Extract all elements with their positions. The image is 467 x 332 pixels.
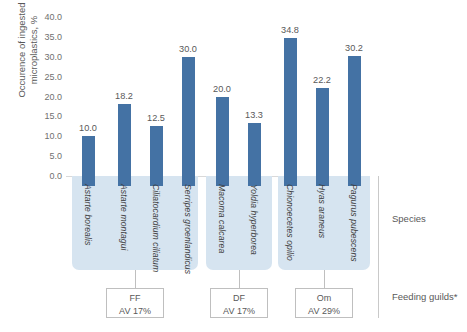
guild-code: DF — [211, 292, 267, 305]
species-name-label: Pagurus pubescens — [349, 184, 359, 262]
bar-value-label: 13.3 — [234, 110, 274, 120]
bar — [248, 123, 261, 176]
species-axis-label: Species — [392, 213, 426, 224]
bar-value-label: 22.2 — [302, 75, 342, 85]
y-axis-tick: 15.0 — [28, 111, 62, 121]
bar-value-label: 30.2 — [334, 43, 374, 53]
bar-value-label: 30.0 — [168, 44, 208, 54]
guild-connector — [239, 270, 240, 288]
guild-connector — [324, 270, 325, 288]
bar — [118, 104, 131, 176]
species-name-label: Hyas araneus — [317, 184, 327, 238]
species-group-panel: Chionoecetes opilioHyas araneusPagurus p… — [278, 176, 370, 270]
bar-value-label: 18.2 — [104, 91, 144, 101]
species-name-label: Serripes groenlandicus — [183, 184, 193, 274]
feeding-guild-box: FFAV 17% — [106, 288, 164, 318]
bar-value-label: 34.8 — [270, 25, 310, 35]
bar — [316, 88, 329, 176]
chart-container: Occurence of ingested microplastics, % 4… — [0, 0, 467, 332]
guild-code: Om — [296, 292, 352, 305]
species-group-panel: Macoma calcareaYoldia hyperborea — [206, 176, 272, 270]
feeding-guild-box: OmAV 29% — [295, 288, 353, 318]
bar — [82, 136, 95, 176]
guild-average: AV 17% — [211, 305, 267, 318]
y-axis-tick: 10.0 — [28, 131, 62, 141]
species-name-label: Macoma calcarea — [217, 184, 227, 253]
bar-value-label: 10.0 — [68, 123, 108, 133]
bar-value-label: 12.5 — [136, 113, 176, 123]
guild-average: AV 17% — [107, 305, 163, 318]
y-axis-tick: 40.0 — [28, 12, 62, 22]
y-axis-tick-labels: 40.035.030.025.020.015.010.05.00.0 — [12, 0, 62, 332]
bar — [182, 57, 195, 176]
species-name-label: Ciliatocardium ciliatum — [151, 184, 161, 272]
feeding-guild-box: DFAV 17% — [210, 288, 268, 318]
y-axis-tick: 0.0 — [28, 171, 62, 181]
bar-value-label: 20.0 — [202, 84, 242, 94]
guild-code: FF — [107, 292, 163, 305]
y-axis-tick: 25.0 — [28, 72, 62, 82]
right-divider — [378, 176, 379, 318]
y-axis-tick: 30.0 — [28, 52, 62, 62]
y-axis-tick: 35.0 — [28, 32, 62, 42]
y-axis-tick: 20.0 — [28, 92, 62, 102]
guild-average: AV 29% — [296, 305, 352, 318]
bar — [216, 97, 229, 177]
species-group-panel: Astarte borealisAstarte montaguiCiliatoc… — [72, 176, 198, 270]
bar — [348, 56, 361, 176]
y-axis-tick: 5.0 — [28, 151, 62, 161]
feeding-guilds-axis-label: Feeding guilds* — [392, 291, 458, 302]
species-name-label: Astarte montagui — [119, 184, 129, 251]
species-name-label: Yoldia hyperborea — [249, 184, 259, 255]
bar — [150, 126, 163, 176]
guild-connector — [135, 270, 136, 288]
species-name-label: Chionoecetes opilio — [285, 184, 295, 261]
bar — [284, 38, 297, 176]
species-name-label: Astarte borealis — [83, 184, 93, 245]
plot-area: 10.018.212.530.020.013.334.822.230.2 — [66, 17, 370, 176]
